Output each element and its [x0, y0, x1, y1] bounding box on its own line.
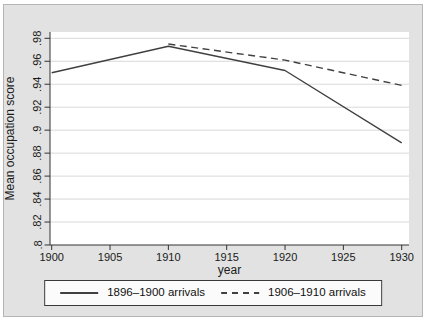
y-tick-label-.94: .94: [32, 77, 44, 92]
y-tick-label-.86: .86: [32, 168, 44, 183]
x-tick-label-1925: 1925: [331, 251, 355, 263]
legend-item-1896-1900: 1896–1900 arrivals: [60, 287, 205, 299]
chart-svg: .8.82.84.86.88.9.92.94.96.98190019051910…: [0, 0, 426, 321]
legend-solid-line-sample: [60, 292, 98, 294]
x-axis-title: year: [218, 263, 241, 277]
y-tick-label-.98: .98: [32, 31, 44, 46]
x-tick-label-1930: 1930: [389, 251, 413, 263]
x-tick-label-1915: 1915: [214, 251, 238, 263]
x-tick-label-1910: 1910: [156, 251, 180, 263]
y-tick-label-.8: .8: [32, 240, 44, 249]
y-tick-label-.84: .84: [32, 191, 44, 206]
y-axis-title: Mean occupation score: [3, 76, 17, 200]
plot-area: [50, 32, 409, 245]
legend: 1896–1900 arrivals 1906–1910 arrivals: [44, 280, 382, 306]
x-tick-label-1920: 1920: [273, 251, 297, 263]
x-tick-label-1905: 1905: [98, 251, 122, 263]
legend-label-1906-1910: 1906–1910 arrivals: [268, 287, 366, 299]
y-tick-label-.9: .9: [32, 126, 44, 135]
y-tick-label-.88: .88: [32, 145, 44, 160]
y-tick-label-.96: .96: [32, 54, 44, 69]
legend-item-1906-1910: 1906–1910 arrivals: [221, 287, 366, 299]
legend-dashed-line-sample: [221, 292, 259, 294]
y-tick-label-.92: .92: [32, 100, 44, 115]
legend-label-1896-1900: 1896–1900 arrivals: [107, 287, 205, 299]
x-tick-label-1900: 1900: [39, 251, 63, 263]
y-tick-label-.82: .82: [32, 214, 44, 229]
